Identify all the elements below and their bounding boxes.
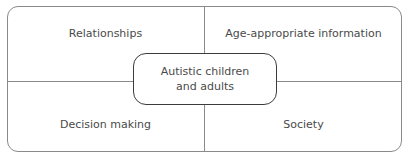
- quadrant-decision-making: Decision making: [7, 118, 204, 131]
- quadrant-relationships: Relationships: [7, 27, 204, 40]
- center-line-1: Autistic children: [161, 64, 250, 79]
- quadrant-society: Society: [205, 118, 402, 131]
- center-node: Autistic children and adults: [133, 53, 277, 105]
- center-node-text: Autistic children and adults: [161, 64, 250, 94]
- quadrant-age-appropriate-information: Age-appropriate information: [205, 27, 402, 40]
- center-line-2: and adults: [161, 79, 250, 94]
